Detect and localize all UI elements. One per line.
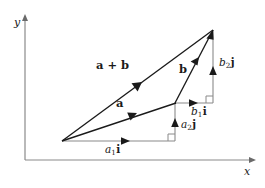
component-b1i-scalar: b [191, 105, 198, 117]
vector-a-plus-b-arrowhead [132, 82, 143, 92]
component-b2j-scalar: b [219, 56, 226, 68]
x-axis-label: x [244, 166, 250, 177]
b2j-arrowhead [209, 66, 217, 75]
figure-canvas [0, 0, 265, 188]
vector-b-label: b [179, 64, 187, 76]
component-a2j-label: a2j [181, 119, 196, 131]
y-axis-arrowhead [22, 14, 28, 21]
y-axis-label: y [14, 17, 20, 28]
vector-a-plus-b-label: a + b [96, 60, 129, 72]
component-a1i-label: a1i [105, 144, 120, 156]
x-axis-arrowhead [249, 157, 256, 163]
a1i-arrowhead [121, 137, 130, 145]
a2j-arrowhead [171, 118, 179, 127]
component-b2j-unit: j [230, 56, 234, 68]
component-b2j-label: b2j [219, 57, 235, 69]
vector-addition-figure: y x a + b a b a1i a2j b1i b2j [0, 0, 265, 188]
upper-right-angle-marker [206, 96, 213, 103]
component-b1i-unit: i [202, 105, 207, 117]
component-a1i-unit: i [116, 143, 121, 155]
lower-right-angle-marker [168, 134, 175, 141]
component-b1i-label: b1i [191, 106, 207, 118]
component-a2j-unit: j [192, 118, 196, 130]
vector-a-label: a [116, 98, 123, 110]
